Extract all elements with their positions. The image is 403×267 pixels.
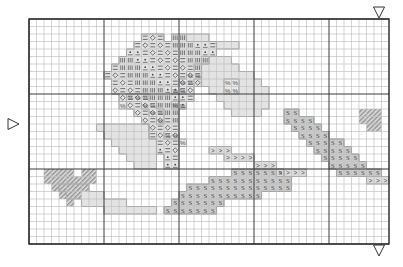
cell-symbol-ess: S — [331, 154, 335, 161]
cell-symbol-ess: S — [278, 184, 282, 191]
pattern-cell — [127, 207, 135, 215]
cell-symbol-ess: S — [256, 184, 260, 191]
s-glyph: S — [211, 192, 215, 199]
pattern-cell — [112, 124, 120, 132]
s-glyph: S — [338, 162, 342, 169]
cell-symbol-ess: S — [211, 192, 215, 199]
cell-symbol-ess: S — [233, 169, 237, 176]
chevron-glyph: > — [233, 154, 237, 161]
s-glyph: S — [248, 184, 252, 191]
cross-stitch-chart-stage: SSSSSSSSSSSSSSSSSSSSSSSSSSSSSSSSSSSSSSSS… — [0, 0, 403, 267]
cell-symbol-ess: S — [226, 184, 230, 191]
cell-symbol-ess: S — [248, 184, 252, 191]
cell-symbol-ess: S — [211, 177, 215, 184]
s-glyph: S — [188, 184, 192, 191]
pattern-cell — [44, 177, 52, 185]
pattern-cell — [164, 42, 172, 50]
pattern-cell — [239, 102, 247, 110]
s-glyph: S — [286, 117, 290, 124]
chevron-glyph: > — [376, 177, 380, 184]
dot-icon — [152, 66, 154, 68]
pattern-cell — [217, 94, 225, 102]
s-glyph: S — [316, 147, 320, 154]
cell-symbol-ess: S — [203, 192, 207, 199]
cell-symbol-ess: S — [316, 139, 320, 146]
cell-symbol-chev: > — [211, 147, 215, 154]
cell-symbol-ess: S — [301, 132, 305, 139]
chevron-glyph: > — [286, 169, 290, 176]
pattern-cell — [127, 132, 135, 140]
pattern-cell — [374, 117, 382, 125]
cell-symbol-ess: S — [361, 162, 365, 169]
s-glyph: S — [188, 192, 192, 199]
s-glyph: S — [301, 124, 305, 131]
cell-symbol-chev: > — [248, 154, 252, 161]
pattern-cell — [112, 64, 120, 72]
pattern-cell — [59, 184, 67, 192]
pattern-cell — [172, 139, 180, 147]
pattern-cell — [247, 109, 255, 117]
pattern-cell — [157, 139, 165, 147]
pattern-cell — [89, 199, 97, 207]
cell-symbol-chev: > — [218, 147, 222, 154]
s-glyph: S — [323, 154, 327, 161]
cell-symbol-ess: S — [173, 207, 177, 214]
chevron-glyph: > — [293, 169, 297, 176]
pattern-cell — [224, 102, 232, 110]
cell-symbol-ess: S — [211, 199, 215, 206]
dot-icon — [204, 51, 206, 53]
cell-symbol-ess: S — [278, 177, 282, 184]
pattern-cell — [112, 199, 120, 207]
cell-symbol-percent: % — [172, 87, 178, 94]
chevron-glyph: > — [368, 177, 372, 184]
pattern-cell — [187, 64, 195, 72]
pattern-cell — [172, 79, 180, 87]
cell-symbol-percent: % — [157, 117, 163, 124]
pattern-cell — [232, 72, 240, 80]
s-glyph: S — [331, 154, 335, 161]
s-glyph: S — [233, 192, 237, 199]
cell-symbol-percent: % — [180, 139, 186, 146]
s-glyph: S — [226, 184, 230, 191]
cell-symbol-ess: S — [256, 169, 260, 176]
cell-symbol-ess: S — [211, 184, 215, 191]
percent-glyph: % — [187, 72, 193, 79]
s-glyph: S — [301, 117, 305, 124]
pattern-cell — [202, 34, 210, 42]
cell-symbol-ess: S — [353, 169, 357, 176]
s-glyph: S — [346, 154, 350, 161]
s-glyph: S — [278, 184, 282, 191]
pattern-cell — [209, 72, 217, 80]
pattern-cell — [119, 132, 127, 140]
percent-glyph: % — [187, 79, 193, 86]
s-glyph: S — [218, 192, 222, 199]
pattern-cell — [217, 72, 225, 80]
dot-icon — [129, 51, 131, 53]
cell-symbol-ess: S — [271, 177, 275, 184]
pattern-cell — [82, 199, 90, 207]
pattern-cell — [127, 124, 135, 132]
pattern-cell — [142, 162, 150, 170]
s-glyph: S — [331, 162, 335, 169]
s-glyph: S — [233, 184, 237, 191]
cell-symbol-ess: S — [226, 192, 230, 199]
pattern-cell — [217, 57, 225, 65]
pattern-cell — [97, 192, 105, 200]
pattern-cell — [142, 154, 150, 162]
cell-symbol-ess: S — [263, 177, 267, 184]
s-glyph: S — [301, 132, 305, 139]
s-glyph: S — [181, 207, 185, 214]
s-glyph: S — [196, 207, 200, 214]
cell-symbol-ess: S — [346, 154, 350, 161]
pattern-cell — [247, 94, 255, 102]
s-glyph: S — [338, 154, 342, 161]
chevron-glyph: > — [278, 169, 282, 176]
cell-symbol-ess: S — [218, 177, 222, 184]
pattern-cell — [119, 124, 127, 132]
pattern-cell — [157, 64, 165, 72]
dot-icon — [159, 149, 161, 151]
pattern-cell — [59, 169, 67, 177]
pattern-cell — [104, 124, 112, 132]
pattern-cell — [134, 132, 142, 140]
pattern-cell — [254, 102, 262, 110]
